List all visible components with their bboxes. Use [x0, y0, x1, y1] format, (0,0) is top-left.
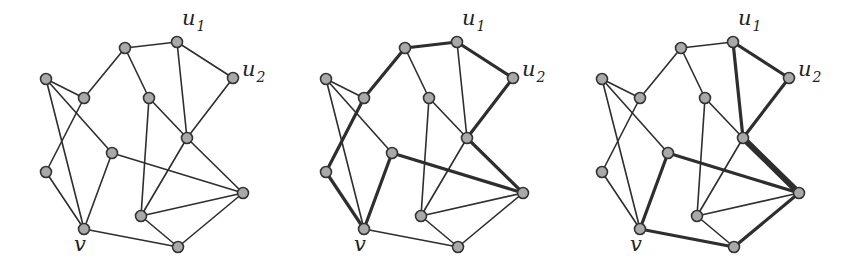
label-u1: u1 — [738, 6, 761, 34]
label-u1: u1 — [462, 6, 485, 34]
node-G — [597, 167, 608, 178]
edge-u1-u2-highlighted — [733, 42, 789, 78]
node-F — [387, 148, 398, 159]
graph-cycle-highlight: u1u2v — [321, 6, 546, 256]
node-C — [79, 93, 90, 104]
edge-F-v — [84, 153, 112, 229]
node-A — [676, 43, 687, 54]
edge-u1-E — [177, 42, 187, 138]
edge-G-v — [602, 172, 640, 229]
edge-u2-E-highlighted — [467, 78, 513, 138]
edge-D-E — [705, 98, 743, 138]
edge-I-J — [141, 216, 178, 247]
node-G — [41, 167, 52, 178]
node-J — [729, 242, 740, 253]
edge-A-D — [405, 48, 429, 98]
node-C — [635, 93, 646, 104]
edge-A-u1 — [681, 42, 733, 48]
label-v: v — [74, 232, 86, 256]
edge-v-J — [84, 229, 178, 247]
node-I — [136, 211, 147, 222]
edge-u2-E — [187, 78, 233, 138]
node-A — [400, 43, 411, 54]
node-u2 — [784, 73, 795, 84]
node-F — [107, 148, 118, 159]
node-B — [597, 74, 608, 85]
edge-D-E — [149, 98, 187, 138]
node-E — [738, 133, 749, 144]
node-u2 — [228, 73, 239, 84]
edge-u1-E — [457, 42, 467, 138]
node-u1 — [728, 37, 739, 48]
graph-paths-highlight: u1u2v — [597, 6, 822, 256]
node-H — [794, 188, 805, 199]
edge-D-I — [697, 98, 705, 216]
edge-v-J-highlighted — [640, 229, 734, 247]
edge-F-v-highlighted — [640, 153, 668, 229]
edge-A-D — [125, 48, 149, 98]
node-J — [173, 242, 184, 253]
edge-u1-u2 — [177, 42, 233, 78]
node-A — [120, 43, 131, 54]
edge-G-v — [46, 172, 84, 229]
edge-I-H — [141, 193, 243, 216]
edge-C-G — [46, 98, 84, 172]
edge-B-C — [326, 79, 364, 98]
edge-u2-E-highlighted — [743, 78, 789, 138]
node-D — [144, 93, 155, 104]
label-v: v — [354, 232, 366, 256]
node-G — [321, 167, 332, 178]
node-C — [359, 93, 370, 104]
edge-D-I — [421, 98, 429, 216]
edge-v-J — [364, 229, 458, 247]
node-H — [518, 188, 529, 199]
node-u1 — [172, 37, 183, 48]
node-u1 — [452, 37, 463, 48]
edge-A-u1 — [125, 42, 177, 48]
node-D — [700, 93, 711, 104]
edge-G-v-highlighted — [326, 172, 364, 229]
label-u2: u2 — [242, 57, 266, 85]
node-F — [663, 148, 674, 159]
edge-A-C — [84, 48, 125, 98]
edge-E-I — [421, 138, 467, 216]
node-B — [41, 74, 52, 85]
edge-E-I — [141, 138, 187, 216]
node-I — [692, 211, 703, 222]
node-u2 — [508, 73, 519, 84]
edge-A-C — [640, 48, 681, 98]
node-E — [462, 133, 473, 144]
edge-F-v-highlighted — [364, 153, 392, 229]
label-v: v — [630, 232, 642, 256]
edge-C-G-highlighted — [326, 98, 364, 172]
label-u1: u1 — [182, 6, 205, 34]
node-B — [321, 74, 332, 85]
edge-D-I — [141, 98, 149, 216]
edge-u1-u2-highlighted — [457, 42, 513, 78]
edge-u1-E-highlighted — [733, 42, 743, 138]
label-u2: u2 — [522, 57, 546, 85]
edge-B-C — [602, 79, 640, 98]
edge-D-E — [429, 98, 467, 138]
edge-A-C-highlighted — [364, 48, 405, 98]
graph-plain: u1u2v — [41, 6, 266, 256]
node-J — [453, 242, 464, 253]
edge-A-D — [681, 48, 705, 98]
node-I — [416, 211, 427, 222]
edge-C-G — [602, 98, 640, 172]
graph-figure: u1u2vu1u2vu1u2v — [0, 0, 854, 270]
edge-I-J — [421, 216, 458, 247]
edge-A-u1-highlighted — [405, 42, 457, 48]
edge-E-I — [697, 138, 743, 216]
node-E — [182, 133, 193, 144]
node-H — [238, 188, 249, 199]
node-D — [424, 93, 435, 104]
edge-B-C — [46, 79, 84, 98]
label-u2: u2 — [798, 57, 822, 85]
edge-I-H — [421, 193, 523, 216]
